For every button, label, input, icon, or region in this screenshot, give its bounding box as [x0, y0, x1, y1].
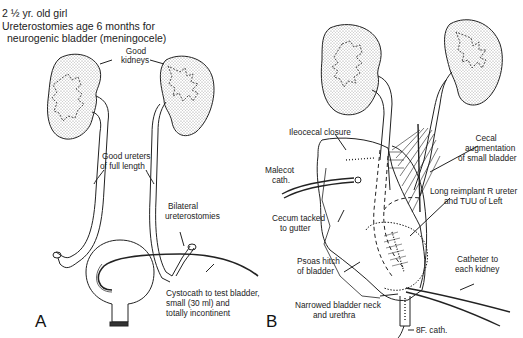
- label-malecot-2: cath.: [272, 175, 290, 185]
- kidney-right-b: [445, 20, 503, 105]
- label-cecal-1: Cecal: [466, 133, 506, 143]
- label-malecot-1: Malecot: [265, 165, 294, 175]
- case-description-line1: Ureterostomies age 6 months for: [2, 20, 155, 33]
- label-cecal-3: of small bladder: [458, 153, 517, 163]
- label-bilateral-2: ureterostomies: [165, 211, 220, 221]
- label-ileocecal-closure: Ileocecal closure: [289, 127, 351, 137]
- label-8f-catheter: 8F. cath.: [416, 325, 447, 335]
- bladder-a: [86, 240, 154, 322]
- label-cystocath-3: totally incontinent: [166, 308, 230, 318]
- label-catheter-1: Catheter to: [457, 254, 498, 264]
- label-cecum-tacked-1: Cecum tacked: [272, 213, 325, 223]
- label-good-kidneys-2: kidneys: [112, 55, 158, 65]
- label-reimplant-2: and TUU of Left: [444, 196, 502, 206]
- label-reimplant-1: Long reimplant R ureter: [430, 186, 517, 196]
- label-cystocath-1: Cystocath to test bladder,: [166, 288, 260, 298]
- label-bladder-neck-1: Narrowed bladder neck: [295, 300, 381, 310]
- label-cecum-tacked-2: to gutter: [280, 223, 310, 233]
- panel-letter-b: B: [266, 313, 277, 331]
- label-cystocath-2: small (30 ml) and: [166, 298, 230, 308]
- kidney-left-a: [48, 54, 101, 139]
- label-good-ureters-2: of full length: [100, 161, 145, 171]
- kidney-left-b: [321, 25, 381, 115]
- label-bilateral-1: Bilateral: [168, 201, 198, 211]
- label-bladder-neck-2: and urethra: [313, 310, 355, 320]
- label-psoas-1: Psoas hitch: [297, 256, 340, 266]
- medical-illustration: 2 ½ yr. old girl Ureterostomies age 6 mo…: [0, 0, 523, 338]
- label-good-ureters-1: Good ureters: [102, 151, 150, 161]
- panel-letter-a: A: [35, 313, 46, 331]
- cecum: [317, 138, 425, 300]
- case-title: 2 ½ yr. old girl: [2, 7, 67, 20]
- case-description-line2: neurogenic bladder (meningocele): [7, 32, 166, 45]
- line-art: [0, 0, 523, 338]
- label-psoas-2: of bladder: [297, 266, 334, 276]
- kidney-right-a: [160, 56, 214, 136]
- label-cecal-2: augmentation: [465, 143, 515, 153]
- label-catheter-2: each kidney: [455, 264, 499, 274]
